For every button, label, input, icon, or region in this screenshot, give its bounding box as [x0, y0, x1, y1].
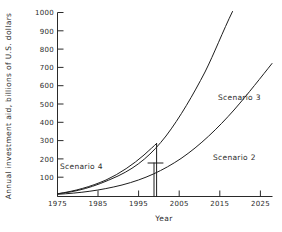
x-tick-label: 1975 — [48, 200, 67, 208]
series-annotation-scenario-2: Scenario 2 — [213, 153, 256, 162]
y-tick-label: 500 — [40, 101, 54, 109]
x-tick-label: 1995 — [129, 200, 148, 208]
y-axis-tick-labels: 1000 900 800 700 600 500 400 300 200 100 — [35, 9, 54, 182]
x-axis-tick-labels: 1975 1985 1995 2005 2015 2025 — [48, 200, 270, 208]
x-tick-label: 2025 — [251, 200, 270, 208]
y-tick-label: 100 — [40, 174, 54, 182]
y-tick-label: 800 — [40, 46, 54, 54]
y-tick-label: 200 — [40, 156, 54, 164]
chart-figure: 1000 900 800 700 600 500 400 300 200 100… — [0, 0, 282, 232]
y-axis-title: Annual investment aid, billions of U.S. … — [4, 13, 13, 200]
x-axis-title: Year — [154, 214, 173, 223]
y-tick-label: 1000 — [35, 9, 54, 17]
y-tick-label: 300 — [40, 137, 54, 145]
x-tick-label: 2015 — [210, 200, 229, 208]
y-axis-ticks — [58, 13, 64, 178]
y-tick-label: 900 — [40, 28, 54, 36]
x-tick-label: 1985 — [88, 200, 107, 208]
y-tick-label: 600 — [40, 82, 54, 90]
series-line-scenario-2 — [58, 64, 273, 195]
chart-canvas: 1000 900 800 700 600 500 400 300 200 100… — [0, 0, 282, 232]
x-tick-label: 2005 — [170, 200, 189, 208]
y-tick-label: 700 — [40, 64, 54, 72]
series-annotation-scenario-4: Scenario 4 — [60, 162, 103, 171]
y-tick-label: 400 — [40, 119, 54, 127]
series-annotation-scenario-3: Scenario 3 — [218, 93, 261, 102]
